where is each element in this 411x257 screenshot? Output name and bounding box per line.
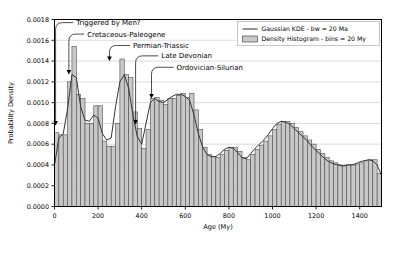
xtick-label: 1000 <box>264 212 280 220</box>
histogram-bar <box>63 135 67 207</box>
histogram-bar <box>299 132 303 207</box>
histogram-bar <box>238 151 242 206</box>
histogram-bar <box>268 136 272 207</box>
histogram-bar <box>159 101 163 207</box>
histogram-bar <box>142 148 146 206</box>
histogram-bar <box>347 165 351 207</box>
histogram-bar <box>116 123 120 206</box>
histogram-bar <box>351 165 355 207</box>
histogram-bar <box>338 165 342 207</box>
legend-label-kde: Gaussian KDE - bw = 20 Ma <box>262 25 349 32</box>
annotation-label: Permian-Triassic <box>133 42 189 50</box>
histogram-bar <box>94 106 98 207</box>
histogram-bar <box>286 121 290 206</box>
histogram-bar <box>355 164 359 207</box>
histogram-bar <box>307 140 311 206</box>
histogram-bar <box>368 160 372 207</box>
histogram-bar <box>59 135 63 207</box>
histogram-bar <box>129 78 133 207</box>
ytick-label: 0.0004 <box>27 161 49 169</box>
histogram-bar <box>377 173 381 206</box>
ytick-label: 0.0006 <box>27 140 49 148</box>
histogram-bar <box>325 158 329 207</box>
histogram-bar <box>102 141 106 206</box>
annotation-label: Cretaceous-Paleogene <box>87 31 165 39</box>
xtick-label: 1400 <box>352 212 368 220</box>
xtick-label: 1200 <box>308 212 324 220</box>
histogram-bar <box>290 123 294 206</box>
legend-marker-histogram <box>243 36 258 42</box>
legend-label-histogram: Density Histogram - bins = 20 My <box>262 35 367 43</box>
xtick-label: 0 <box>52 212 56 220</box>
ytick-label: 0.0010 <box>27 99 49 107</box>
histogram-bar <box>211 157 215 207</box>
histogram-bar <box>294 128 298 207</box>
histogram-bar <box>164 105 168 207</box>
histogram-bar <box>329 161 333 207</box>
histogram-bar <box>72 47 76 207</box>
histogram-bar <box>242 158 246 207</box>
histogram-bar <box>229 147 233 206</box>
xtick-label: 200 <box>92 212 104 220</box>
annotation-label: Ordovician-Silurian <box>177 64 243 72</box>
histogram-bar <box>216 158 220 207</box>
histogram-bar <box>360 163 364 207</box>
histogram-bar <box>251 155 255 207</box>
histogram-bar <box>277 124 281 206</box>
density-chart: 0.00000.00020.00040.00060.00080.00100.00… <box>0 0 411 257</box>
annotation-label: Late Devonian <box>161 52 212 60</box>
histogram-bar <box>203 147 207 206</box>
histogram-bar <box>259 145 263 206</box>
histogram-bar <box>264 141 268 206</box>
histogram-bar <box>220 155 224 207</box>
histogram-bar <box>320 154 324 207</box>
x-axis-label: Age (My) <box>203 223 233 231</box>
histogram-bar <box>107 146 111 206</box>
histogram-bar <box>168 98 172 206</box>
histogram-bar <box>172 98 176 206</box>
histogram-bar <box>273 130 277 207</box>
xtick-label: 400 <box>136 212 148 220</box>
histogram-bar <box>177 95 181 206</box>
histogram-bar <box>181 93 185 206</box>
ytick-label: 0.0002 <box>27 182 49 190</box>
histogram-bar <box>89 123 93 206</box>
histogram-bar <box>364 161 368 207</box>
histogram-bar <box>150 98 154 206</box>
histogram-bar <box>225 150 229 206</box>
histogram-bar <box>255 149 259 206</box>
histogram-bar <box>373 160 377 207</box>
histogram-bar <box>85 123 89 206</box>
histogram-bar <box>146 130 150 207</box>
ytick-label: 0.0016 <box>27 37 49 45</box>
histogram-bar <box>124 75 128 207</box>
histogram-bar <box>334 163 338 207</box>
ytick-label: 0.0014 <box>27 57 49 65</box>
histogram-bar <box>312 144 316 206</box>
histogram-bar <box>246 160 250 207</box>
histogram-bar <box>281 121 285 206</box>
chart-figure: 0.00000.00020.00040.00060.00080.00100.00… <box>0 0 411 257</box>
histogram-bar <box>111 146 115 206</box>
y-axis-label: Probability Density <box>7 82 15 144</box>
ytick-label: 0.0012 <box>27 78 49 86</box>
annotation-label: Triggered by Men? <box>75 19 141 27</box>
histogram-bar <box>76 94 80 206</box>
xtick-label: 600 <box>179 212 191 220</box>
histogram-bar <box>316 149 320 206</box>
histogram-bar <box>342 166 346 207</box>
histogram-bar <box>190 93 194 206</box>
ytick-label: 0.0018 <box>27 16 49 24</box>
ytick-label: 0.0000 <box>27 203 49 211</box>
histogram-bar <box>303 136 307 207</box>
histogram-bar <box>207 155 211 207</box>
histogram-bar <box>233 147 237 206</box>
xtick-label: 800 <box>223 212 235 220</box>
histogram-bar <box>155 97 159 206</box>
ytick-label: 0.0008 <box>27 120 49 128</box>
histogram-bar <box>185 97 189 206</box>
